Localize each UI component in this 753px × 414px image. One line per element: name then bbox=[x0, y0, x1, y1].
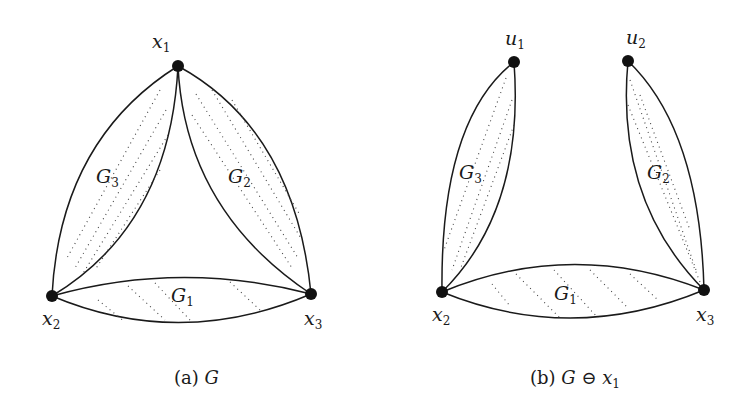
label-x3: x3 bbox=[304, 307, 322, 332]
label-x3: x3 bbox=[696, 303, 714, 328]
panel-b-graph-g-minus-x1: u1 u2 x2 x3 G3 G2 G1 (b) G ⊖ x1 bbox=[432, 26, 714, 391]
label-g1: G1 bbox=[171, 284, 194, 309]
hatch-line bbox=[444, 78, 506, 250]
node-u1 bbox=[508, 56, 520, 68]
hatch-line bbox=[230, 282, 260, 310]
hatch-line bbox=[192, 115, 292, 268]
label-u1: u1 bbox=[505, 27, 525, 52]
edge-g1-upper bbox=[442, 264, 704, 292]
region-g1 bbox=[442, 264, 704, 318]
hatch-line bbox=[212, 90, 302, 240]
caption-a: (a) G bbox=[174, 367, 219, 388]
label-g1: G1 bbox=[554, 282, 577, 307]
label-g2: G2 bbox=[228, 165, 251, 190]
hatch-line bbox=[628, 105, 700, 282]
caption-b: (b) G ⊖ x1 bbox=[530, 367, 620, 391]
label-x2: x2 bbox=[42, 307, 60, 332]
node-x2 bbox=[46, 290, 58, 302]
label-x1: x1 bbox=[152, 30, 170, 55]
panel-a-graph-g: x1 x2 x3 G3 G2 G1 (a) G bbox=[42, 30, 322, 388]
label-g2: G2 bbox=[647, 161, 670, 186]
figure: x1 x2 x3 G3 G2 G1 (a) G bbox=[0, 0, 753, 414]
label-g3: G3 bbox=[96, 165, 119, 190]
hatch-line bbox=[75, 110, 166, 268]
label-g3: G3 bbox=[459, 161, 482, 186]
node-x3 bbox=[305, 288, 317, 300]
hatch-line bbox=[452, 100, 512, 270]
node-x3 bbox=[698, 284, 710, 296]
node-x2 bbox=[436, 286, 448, 298]
hatch-line bbox=[630, 274, 658, 300]
hatch-line bbox=[590, 270, 628, 308]
hatch-line bbox=[98, 300, 125, 322]
hatch-line bbox=[128, 286, 165, 320]
label-x2: x2 bbox=[432, 303, 450, 328]
label-u2: u2 bbox=[626, 26, 646, 51]
hatch-line bbox=[492, 284, 510, 306]
hatch-line bbox=[82, 135, 168, 275]
node-u2 bbox=[622, 55, 634, 67]
hatch-line bbox=[460, 125, 514, 270]
node-x1 bbox=[172, 60, 184, 72]
